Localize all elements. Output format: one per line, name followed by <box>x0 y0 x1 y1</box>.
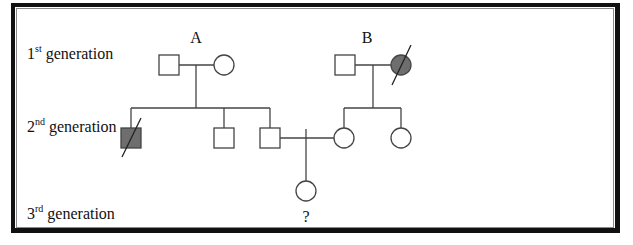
b-daughter2 <box>391 128 411 148</box>
b-father <box>335 55 355 75</box>
a-father <box>159 55 179 75</box>
b-daughter1 <box>334 128 354 148</box>
a-mother <box>214 55 234 75</box>
a-son2 <box>214 128 234 148</box>
gen3-child <box>296 181 316 201</box>
pedigree-chart <box>0 0 633 245</box>
a-son3 <box>260 128 280 148</box>
